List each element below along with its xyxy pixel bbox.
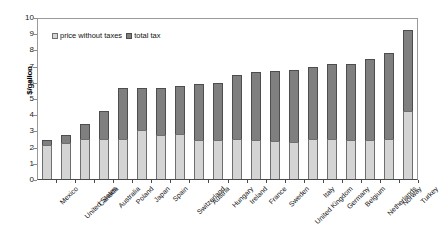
bar-column[interactable] [360, 19, 379, 179]
bar-segment-total-tax[interactable] [384, 53, 394, 139]
y-tick-mark [33, 34, 37, 35]
bar-stack[interactable] [384, 53, 394, 179]
bar-stack[interactable] [327, 64, 337, 179]
bar-column[interactable] [341, 19, 360, 179]
bar-stack[interactable] [156, 88, 166, 179]
bar-column[interactable] [209, 19, 228, 179]
bar-segment-total-tax[interactable] [365, 59, 375, 140]
bar-segment-price-without-taxes[interactable] [251, 140, 261, 179]
bar-stack[interactable] [346, 64, 356, 179]
x-tick-label: Japan [152, 185, 170, 203]
x-tick-mark [399, 180, 400, 183]
bar-stack[interactable] [213, 83, 223, 179]
bar-stack[interactable] [61, 135, 71, 179]
bar-segment-total-tax[interactable] [156, 88, 166, 135]
bar-segment-total-tax[interactable] [308, 67, 318, 138]
bar-segment-price-without-taxes[interactable] [194, 140, 204, 179]
bar-segment-price-without-taxes[interactable] [308, 139, 318, 180]
bar-segment-price-without-taxes[interactable] [327, 139, 337, 179]
bar-column[interactable] [76, 19, 95, 179]
bar-stack[interactable] [118, 88, 128, 179]
bar-column[interactable] [171, 19, 190, 179]
y-tick-label: 4 [18, 111, 34, 119]
bar-segment-price-without-taxes[interactable] [80, 139, 90, 179]
bar-segment-total-tax[interactable] [213, 83, 223, 140]
bar-segment-total-tax[interactable] [327, 64, 337, 139]
x-tick-mark [380, 180, 381, 183]
bar-column[interactable] [379, 19, 398, 179]
y-tick-mark [33, 18, 37, 19]
bar-segment-total-tax[interactable] [137, 88, 147, 130]
bar-column[interactable] [265, 19, 284, 179]
x-tick-mark [323, 180, 324, 183]
bar-segment-price-without-taxes[interactable] [42, 145, 52, 179]
bar-segment-price-without-taxes[interactable] [99, 139, 109, 180]
bar-column[interactable] [114, 19, 133, 179]
x-tick-mark [304, 180, 305, 183]
y-tick-label: 7 [18, 63, 34, 71]
bar-stack[interactable] [232, 75, 242, 179]
bar-stack[interactable] [137, 88, 147, 179]
y-tick-mark [33, 83, 37, 84]
bar-column[interactable] [57, 19, 76, 179]
bar-stack[interactable] [80, 124, 90, 179]
bar-segment-price-without-taxes[interactable] [346, 140, 356, 179]
bar-segment-total-tax[interactable] [270, 71, 280, 141]
bar-segment-total-tax[interactable] [403, 30, 413, 111]
y-tick-label: 9 [18, 30, 34, 38]
bar-segment-price-without-taxes[interactable] [118, 139, 128, 180]
bar-column[interactable] [228, 19, 247, 179]
bar-stack[interactable] [308, 67, 318, 179]
bar-column[interactable] [303, 19, 322, 179]
bar-segment-price-without-taxes[interactable] [61, 143, 71, 179]
bar-segment-price-without-taxes[interactable] [270, 141, 280, 179]
bar-stack[interactable] [175, 86, 185, 179]
bar-stack[interactable] [365, 59, 375, 179]
x-tick-mark [94, 180, 95, 183]
bar-stack[interactable] [289, 70, 299, 179]
x-tick-label: France [267, 185, 287, 205]
x-axis-tick-labels: MexicoUnited StatesCanadaAustraliaPoland… [37, 183, 418, 245]
bar-column[interactable] [95, 19, 114, 179]
bar-segment-price-without-taxes[interactable] [403, 111, 413, 179]
bar-stack[interactable] [42, 140, 52, 179]
bar-segment-total-tax[interactable] [175, 86, 185, 135]
bar-segment-price-without-taxes[interactable] [232, 139, 242, 179]
bar-column[interactable] [398, 19, 417, 179]
bar-segment-price-without-taxes[interactable] [213, 140, 223, 179]
bar-segment-total-tax[interactable] [80, 124, 90, 139]
bar-segment-total-tax[interactable] [251, 72, 261, 140]
bar-column[interactable] [246, 19, 265, 179]
bar-segment-price-without-taxes[interactable] [156, 135, 166, 179]
bar-segment-price-without-taxes[interactable] [365, 140, 375, 179]
y-tick-label: 10 [18, 14, 34, 22]
x-tick-mark [75, 180, 76, 183]
bar-stack[interactable] [194, 84, 204, 179]
bar-stack[interactable] [251, 72, 261, 179]
bar-segment-total-tax[interactable] [61, 135, 71, 143]
bar-column[interactable] [152, 19, 171, 179]
bar-stack[interactable] [270, 71, 280, 179]
bar-segment-price-without-taxes[interactable] [289, 142, 299, 179]
bar-segment-price-without-taxes[interactable] [384, 139, 394, 180]
bar-segment-total-tax[interactable] [289, 70, 299, 141]
bar-column[interactable] [190, 19, 209, 179]
bar-segment-total-tax[interactable] [346, 64, 356, 140]
bar-segment-total-tax[interactable] [194, 84, 204, 140]
legend-label-tax: total tax [134, 31, 160, 40]
bar-stack[interactable] [403, 30, 413, 179]
y-tick-mark [33, 99, 37, 100]
x-tick-mark [113, 180, 114, 183]
bar-segment-price-without-taxes[interactable] [137, 130, 147, 179]
bar-segment-total-tax[interactable] [232, 75, 242, 140]
bar-segment-total-tax[interactable] [118, 88, 128, 138]
bar-segment-total-tax[interactable] [99, 111, 109, 139]
bar-stack[interactable] [99, 111, 109, 179]
x-tick-mark [170, 180, 171, 183]
bar-column[interactable] [322, 19, 341, 179]
bar-column[interactable] [133, 19, 152, 179]
bar-segment-price-without-taxes[interactable] [175, 134, 185, 179]
bar-column[interactable] [284, 19, 303, 179]
bar-column[interactable] [38, 19, 57, 179]
